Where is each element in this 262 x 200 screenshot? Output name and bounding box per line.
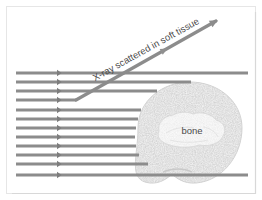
- x-ray-scattering-figure: X-ray scattered in soft tissue bone: [0, 0, 262, 200]
- bone-label: bone: [181, 125, 202, 136]
- diagram-canvas: X-ray scattered in soft tissue bone: [0, 0, 262, 200]
